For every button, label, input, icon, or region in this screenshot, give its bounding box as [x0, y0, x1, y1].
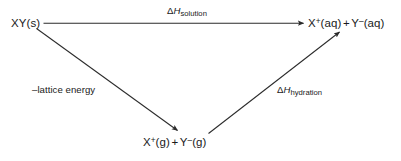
- arrow-hydration-label: ΔHhydration: [277, 85, 322, 97]
- caption-clipped-text: [0, 155, 401, 161]
- node-products-y-state: (aq): [364, 17, 385, 29]
- node-solid-ionic-compound: XY(s): [11, 17, 40, 29]
- energy-cycle-diagram: XY(s) X+(aq)+Y–(aq) X+(g)+Y–(g) ΔHsoluti…: [0, 0, 401, 161]
- node-products-y: Y: [351, 17, 359, 29]
- arrow-hydration-subscript: hydration: [290, 88, 322, 97]
- arrow-hydration-line: [209, 32, 340, 134]
- node-aqueous-ions: X+(aq)+Y–(aq): [308, 17, 385, 29]
- node-products-x: X: [308, 17, 316, 29]
- arrow-lattice-energy-line: [37, 29, 178, 131]
- arrow-lattice-energy-text: –lattice energy: [32, 84, 95, 95]
- arrow-solution-label: ΔHsolution: [167, 6, 207, 18]
- node-gasions-x-state: (g): [156, 136, 170, 148]
- node-gaseous-ions: X+(g)+Y–(g): [143, 136, 207, 148]
- node-products-x-state: (aq): [321, 17, 342, 29]
- node-reactant-text: XY(s): [11, 17, 40, 29]
- node-gasions-operator: +: [170, 136, 180, 148]
- arrow-solution-subscript: solution: [180, 9, 206, 18]
- node-gasions-y: Y: [180, 136, 188, 148]
- node-gasions-x: X: [143, 136, 151, 148]
- node-gasions-y-state: (g): [192, 136, 206, 148]
- arrow-lattice-energy-label: –lattice energy: [32, 85, 95, 95]
- node-products-operator: +: [341, 17, 351, 29]
